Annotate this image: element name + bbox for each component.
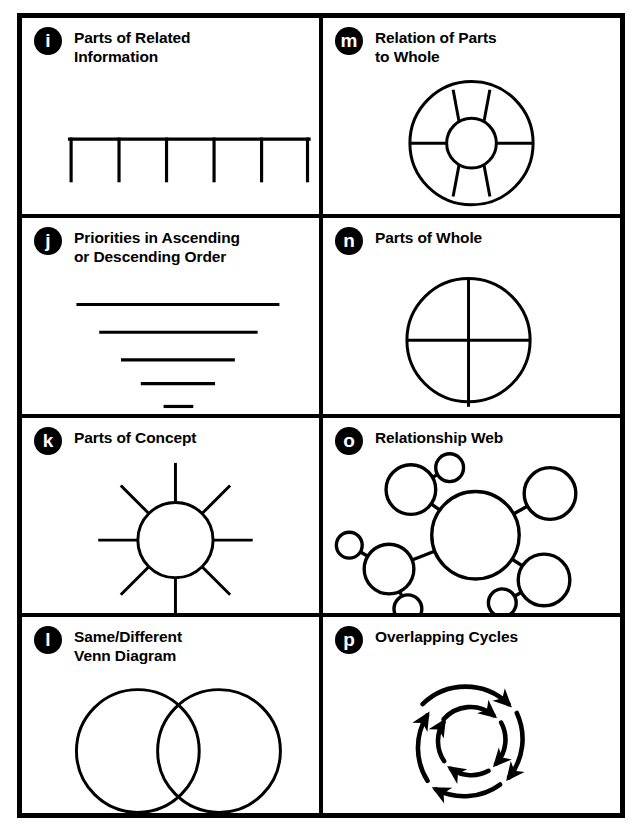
reference-sheet: i Parts of Related Information [0,0,641,832]
panel-p[interactable]: p Overlapping Cycles [323,617,620,813]
spoked-wheel-figure [323,18,620,214]
panel-grid: i Parts of Related Information [22,18,620,813]
panel-o[interactable]: o Relationship Web [323,418,620,614]
sheet-frame: i Parts of Related Information [17,13,625,818]
panel-m[interactable]: m Relation of Parts to Whole [323,18,620,214]
comb-bracket-figure [22,18,319,214]
panel-i[interactable]: i Parts of Related Information [22,18,319,214]
venn-diagram-figure [22,617,319,813]
sunburst-figure [22,418,319,614]
panel-j[interactable]: j Priorities in Ascending or Descending … [22,218,319,414]
panel-l[interactable]: l Same/Different Venn Diagram [22,617,319,813]
panel-k[interactable]: k Parts of Concept [22,418,319,614]
overlapping-cycles-figure [323,617,620,813]
relationship-web-figure [323,418,620,614]
rank-bars-figure [22,218,319,414]
panel-n[interactable]: n Parts of Whole [323,218,620,414]
quartered-circle-figure [323,218,620,414]
